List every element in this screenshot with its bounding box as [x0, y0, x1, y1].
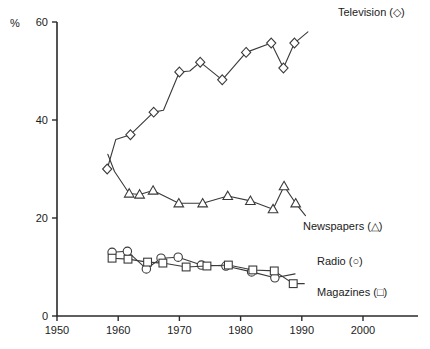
- chart-labels-layer: 0204060195019601970198019902000%Televisi…: [10, 6, 405, 336]
- x-axis-tick-label: 1990: [290, 324, 314, 336]
- data-point-triangle: [279, 181, 289, 189]
- data-point-triangle: [268, 204, 278, 212]
- legend-label-newspapers: Newspapers (△): [303, 220, 383, 232]
- series-newspapers: [108, 154, 306, 215]
- data-point-triangle: [223, 191, 233, 199]
- legend-label-radio: Radio (○): [317, 255, 363, 267]
- data-point-square: [289, 280, 297, 288]
- data-point-circle: [123, 247, 131, 255]
- series-magazines: [108, 254, 304, 287]
- y-axis-tick-label: 20: [36, 212, 48, 224]
- data-point-square: [124, 255, 132, 263]
- data-point-square: [224, 261, 232, 269]
- data-point-square: [108, 254, 116, 262]
- x-axis-tick-label: 2000: [351, 324, 375, 336]
- data-point-diamond: [290, 38, 299, 48]
- x-axis-tick-label: 1970: [167, 324, 191, 336]
- data-point-square: [270, 267, 278, 275]
- data-point-square: [159, 259, 167, 267]
- series-television: [103, 32, 308, 174]
- data-point-triangle: [148, 186, 158, 194]
- data-point-square: [182, 263, 190, 271]
- x-axis-tick-label: 1960: [106, 324, 130, 336]
- data-point-diamond: [175, 67, 184, 77]
- data-point-triangle: [174, 199, 184, 207]
- chart-container: 0204060195019601970198019902000%Televisi…: [0, 0, 430, 349]
- data-point-diamond: [103, 164, 112, 174]
- line-chart: 0204060195019601970198019902000%Televisi…: [0, 0, 430, 349]
- legend-label-magazines: Magazines (□): [317, 286, 387, 298]
- y-axis-tick-label: 40: [36, 114, 48, 126]
- data-point-triangle: [291, 199, 301, 207]
- chart-series-layer: [103, 32, 308, 288]
- x-axis-tick-label: 1980: [228, 324, 252, 336]
- x-axis-tick-label: 1950: [45, 324, 69, 336]
- data-point-triangle: [124, 189, 134, 197]
- series-line: [107, 32, 308, 169]
- y-axis-tick-label: 0: [42, 310, 48, 322]
- series-radio: [108, 247, 295, 282]
- legend-label-television: Television (◇): [338, 6, 405, 18]
- data-point-square: [203, 262, 211, 270]
- y-axis-tick-label: 60: [36, 16, 48, 28]
- data-point-square: [249, 266, 257, 274]
- data-point-diamond: [279, 63, 288, 73]
- data-point-diamond: [267, 38, 276, 48]
- data-point-square: [144, 258, 152, 266]
- data-point-circle: [174, 253, 182, 261]
- y-axis-unit-label: %: [10, 17, 20, 29]
